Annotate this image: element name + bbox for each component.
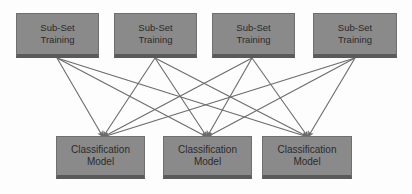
edge-subset4-to-model3 [308,58,355,137]
edge-subset3-to-model1 [103,58,252,137]
subset-training-node-1[interactable]: Sub-Set Training [16,13,99,58]
edge-subset2-to-model1 [103,58,155,137]
node-label-line2: Model [194,156,221,168]
edge-subset2-to-model2 [155,58,207,137]
node-label-line1: Sub-Set [40,22,74,34]
node-label-line2: Training [338,34,372,46]
node-label-line1: Sub-Set [338,22,372,34]
edge-subset4-to-model1 [103,58,355,137]
edge-subset3-to-model3 [252,58,308,137]
subset-training-node-4[interactable]: Sub-Set Training [313,13,397,58]
classification-model-node-3[interactable]: Classification Model [262,136,352,179]
node-label-line1: Classification [278,144,337,156]
edge-subset3-to-model2 [207,58,252,137]
edge-subset4-to-model2 [207,58,355,137]
node-label-line1: Classification [178,144,237,156]
edge-subset1-to-model2 [57,58,207,137]
subset-training-node-3[interactable]: Sub-Set Training [212,13,295,58]
node-label-line2: Training [237,34,271,46]
node-label-line2: Model [87,156,114,168]
subset-training-node-2[interactable]: Sub-Set Training [114,13,197,58]
diagram-canvas: Sub-Set Training Sub-Set Training Sub-Se… [0,0,412,194]
edge-subset1-to-model1 [57,58,103,137]
edge-subset1-to-model3 [57,58,308,137]
classification-model-node-1[interactable]: Classification Model [56,136,145,179]
edge-subset2-to-model3 [155,58,308,137]
node-label-line2: Training [41,34,75,46]
node-label-line2: Model [293,156,320,168]
node-label-line1: Sub-Set [236,22,270,34]
classification-model-node-2[interactable]: Classification Model [163,136,252,179]
node-label-line1: Sub-Set [138,22,172,34]
node-label-line2: Training [139,34,173,46]
edge-group [57,58,355,137]
node-label-line1: Classification [71,144,130,156]
